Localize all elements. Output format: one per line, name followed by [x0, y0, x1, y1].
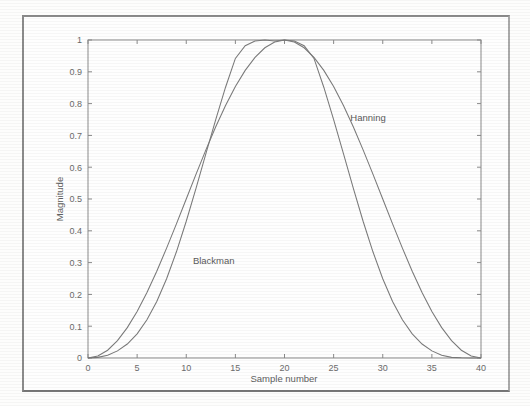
y-tick-label: 1 — [77, 35, 82, 45]
y-tick-label: 0.3 — [69, 258, 82, 268]
y-tick-label: 0.2 — [69, 290, 82, 300]
y-tick-label: 0.1 — [69, 322, 82, 332]
annotation-blackman: Blackman — [193, 255, 235, 266]
y-axis-ticks — [88, 40, 481, 358]
x-axis-tick-labels: 0510152025303540 — [85, 363, 486, 373]
x-tick-label: 0 — [85, 363, 90, 373]
curve-blackman — [88, 40, 481, 358]
x-tick-label: 25 — [329, 363, 339, 373]
x-tick-label: 20 — [279, 363, 289, 373]
curve-hanning — [88, 40, 481, 358]
x-axis-title: Sample number — [250, 373, 317, 384]
x-tick-label: 30 — [378, 363, 388, 373]
y-tick-label: 0 — [77, 353, 82, 363]
chart-figure: 0510152025303540 00.10.20.30.40.50.60.70… — [0, 0, 530, 406]
y-axis-tick-labels: 00.10.20.30.40.50.60.70.80.91 — [69, 35, 82, 363]
x-tick-label: 10 — [181, 363, 191, 373]
x-tick-label: 40 — [476, 363, 486, 373]
data-curves — [88, 40, 481, 358]
x-tick-label: 5 — [135, 363, 140, 373]
y-tick-label: 0.6 — [69, 163, 82, 173]
y-tick-label: 0.7 — [69, 131, 82, 141]
x-axis-ticks — [88, 40, 481, 358]
x-tick-label: 15 — [230, 363, 240, 373]
plot-canvas: 0510152025303540 00.10.20.30.40.50.60.70… — [0, 0, 530, 406]
figure-page: 0510152025303540 00.10.20.30.40.50.60.70… — [0, 0, 530, 406]
axes-box — [88, 40, 481, 358]
y-tick-label: 0.8 — [69, 99, 82, 109]
y-tick-label: 0.5 — [69, 194, 82, 204]
y-tick-label: 0.4 — [69, 226, 82, 236]
x-tick-label: 35 — [427, 363, 437, 373]
annotation-hanning: Hanning — [350, 112, 385, 123]
y-tick-label: 0.9 — [69, 67, 82, 77]
y-axis-title: Magnitude — [54, 177, 65, 221]
